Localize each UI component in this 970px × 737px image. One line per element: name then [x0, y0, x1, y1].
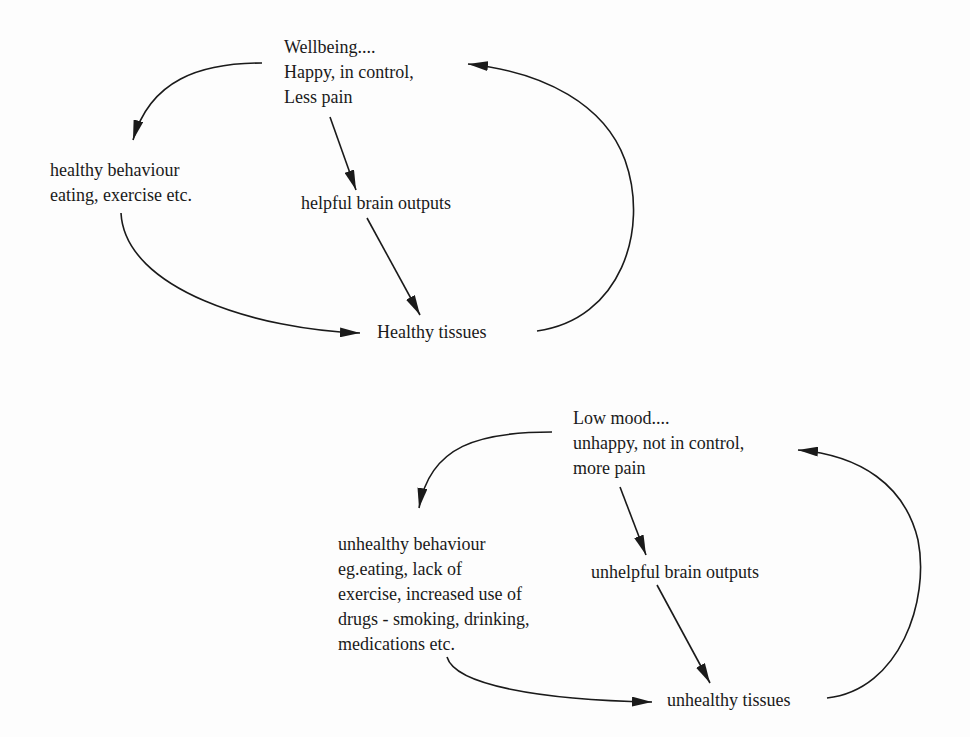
node-line: medications etc. — [338, 632, 530, 657]
unhealthy-tissues-node: unhealthy tissues — [667, 688, 791, 713]
diagram-canvas: Wellbeing.... Happy, in control, Less pa… — [0, 0, 970, 737]
healthy-behaviour-node: healthy behaviour eating, exercise etc. — [50, 158, 192, 208]
low-mood-state-node: Low mood.... unhappy, not in control, mo… — [573, 406, 744, 481]
arrow-behaviour-to-tissues — [121, 213, 360, 333]
arrow-brain-to-unhealthy-tissues — [657, 585, 710, 683]
node-line: more pain — [573, 456, 744, 481]
arrow-tissues-to-state — [468, 64, 634, 331]
arrow-state-to-behaviour — [133, 63, 262, 140]
node-line: Wellbeing.... — [284, 35, 414, 60]
node-line: unhealthy behaviour — [338, 532, 530, 557]
arrow-behaviour-to-unhealthy-tissues — [447, 657, 652, 702]
unhealthy-behaviour-node: unhealthy behaviour eg.eating, lack of e… — [338, 532, 530, 657]
helpful-brain-outputs-node: helpful brain outputs — [301, 191, 451, 216]
unhelpful-brain-outputs-node: unhelpful brain outputs — [591, 560, 759, 585]
wellbeing-state-node: Wellbeing.... Happy, in control, Less pa… — [284, 35, 414, 110]
arrow-brain-to-tissues — [367, 218, 420, 315]
node-line: unhappy, not in control, — [573, 431, 744, 456]
node-line: Happy, in control, — [284, 60, 414, 85]
arrow-lowmood-to-brain — [620, 487, 646, 555]
node-line: exercise, increased use of — [338, 582, 530, 607]
arrow-tissues-to-lowmood — [798, 450, 921, 698]
node-line: drugs - smoking, drinking, — [338, 607, 530, 632]
node-line: eating, exercise etc. — [50, 183, 192, 208]
node-line: Low mood.... — [573, 406, 744, 431]
node-line: eg.eating, lack of — [338, 557, 530, 582]
node-line: healthy behaviour — [50, 158, 192, 183]
healthy-tissues-node: Healthy tissues — [377, 320, 487, 345]
node-line: Less pain — [284, 85, 414, 110]
arrow-state-to-brain — [330, 117, 356, 190]
arrow-lowmood-to-behaviour — [419, 432, 552, 508]
